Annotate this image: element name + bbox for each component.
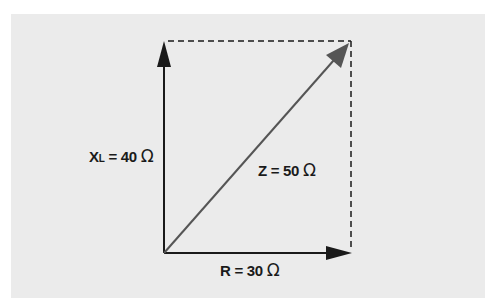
ohm-unit: Ω (141, 146, 154, 166)
ohm-unit: Ω (303, 160, 316, 180)
resistance-value: = 30 (231, 262, 267, 279)
reactance-label: XL = 40 Ω (89, 146, 153, 166)
resistance-label: R = 30 Ω (220, 260, 279, 280)
resistance-arrowhead-icon (326, 246, 352, 260)
impedance-label: Z = 50 Ω (258, 160, 316, 180)
ohm-unit: Ω (267, 260, 280, 280)
reactance-value: = 40 (105, 148, 141, 165)
impedance-vector-line (164, 60, 334, 253)
impedance-value: = 50 (267, 162, 303, 179)
impedance-symbol: Z (258, 162, 267, 179)
reactance-arrowhead-icon (157, 41, 171, 67)
resistance-symbol: R (220, 262, 231, 279)
reactance-symbol: X (89, 148, 99, 165)
